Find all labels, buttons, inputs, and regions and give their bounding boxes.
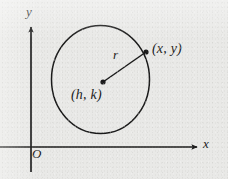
radius-segment [103,52,146,82]
center-point-dot [100,79,105,84]
circle-point-dot [143,49,148,54]
origin-label: O [32,147,42,160]
x-axis-label: x [203,137,209,150]
figure-canvas: y x O r (x, y) (h, k) [0,0,228,179]
point-on-circle-label: (x, y) [152,42,182,56]
y-axis-label: y [26,5,32,18]
radius-label: r [113,48,118,61]
center-coordinates-label: (h, k) [71,88,102,102]
circle-shape [52,26,150,134]
